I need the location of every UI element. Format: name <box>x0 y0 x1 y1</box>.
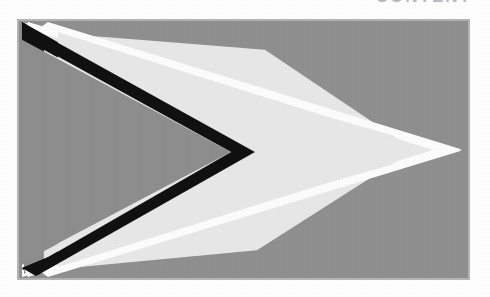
header-strip: CONTENT <box>0 0 490 10</box>
nested-chevron-figure <box>18 20 469 279</box>
page-canvas: CONTENT <box>0 0 490 297</box>
page-title: CONTENT <box>376 0 472 7</box>
figure-frame <box>17 19 470 280</box>
